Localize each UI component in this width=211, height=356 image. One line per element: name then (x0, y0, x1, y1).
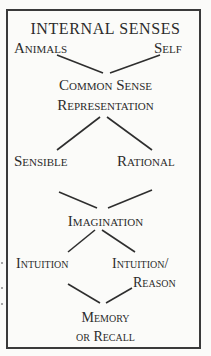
node-common-sense: Common Sense (0, 78, 211, 93)
edge-imagination-intuition (68, 230, 95, 252)
node-memory: Memory (0, 311, 211, 325)
node-animals: Animals (14, 41, 67, 56)
edge-self-common-sense (110, 55, 160, 73)
node-representation: Representation (0, 98, 211, 113)
diagram-title: INTERNAL SENSES (0, 21, 211, 37)
edge-intuition-reason-memory (106, 288, 132, 303)
node-intuition-reason: Intuition/ (112, 257, 168, 271)
node-reason: Reason (133, 276, 176, 290)
edge-representation-sensible (57, 117, 100, 150)
edge-rational-imagination (108, 190, 152, 208)
node-intuition: Intuition (16, 257, 68, 271)
edge-sensible-imagination (59, 192, 97, 208)
node-self: Self (154, 41, 182, 56)
node-or-recall: or Recall (0, 330, 211, 344)
node-sensible: Sensible (14, 154, 68, 169)
edge-representation-rational (107, 117, 152, 150)
edge-animals-common-sense (57, 55, 103, 73)
edge-intuition-memory (68, 284, 100, 303)
node-imagination: Imagination (0, 214, 211, 229)
edge-imagination-intuition-reason (102, 230, 135, 252)
node-rational: Rational (117, 154, 175, 169)
